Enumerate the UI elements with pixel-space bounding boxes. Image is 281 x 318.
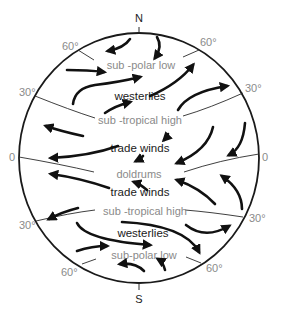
lat-line-n60-right <box>183 50 199 57</box>
lat-label-n30-right: 30° <box>245 82 262 94</box>
arrows-north-polar <box>108 37 160 58</box>
label-south-subtropical-high: sub -tropical high <box>103 205 187 217</box>
lat-line-n30-left <box>35 96 95 118</box>
lat-line-equator-right <box>184 154 259 172</box>
lat-line-s60-right <box>186 257 201 263</box>
lat-line-s30-right <box>185 210 243 217</box>
lat-line-s60-left <box>82 259 96 264</box>
label-north-trade-winds: trade winds <box>111 142 170 154</box>
label-doldrums: doldrums <box>116 168 162 180</box>
label-south-trade-winds: trade winds <box>111 186 170 198</box>
south-label: S <box>135 293 142 305</box>
lat-line-n60-left <box>78 50 94 60</box>
label-south-subpolar-low: sub-polar low <box>111 249 176 261</box>
lat-label-eq-right: 0 <box>262 151 268 163</box>
arrows-north-westerlies <box>67 65 227 113</box>
label-north-subpolar-low: sub -polar low <box>107 59 176 71</box>
lat-line-equator-left <box>19 157 94 172</box>
lat-label-n60-right: 60° <box>200 36 217 48</box>
lat-label-n60-left: 60° <box>62 40 79 52</box>
label-north-subtropical-high: sub -tropical high <box>98 114 182 126</box>
north-label: N <box>135 12 143 24</box>
lat-label-s30-right: 30° <box>249 212 266 224</box>
lat-label-n30-left: 30° <box>19 86 36 98</box>
wind-circulation-diagram: N S 60° 60° 30° 30° 0 0 30° 30° 60° 60° … <box>0 0 281 318</box>
label-south-westerlies: westerlies <box>116 227 168 239</box>
lat-label-s60-right: 60° <box>206 262 223 274</box>
lat-label-s30-left: 30° <box>19 219 36 231</box>
lat-label-eq-left: 0 <box>9 151 15 163</box>
lat-label-s60-left: 60° <box>61 266 78 278</box>
